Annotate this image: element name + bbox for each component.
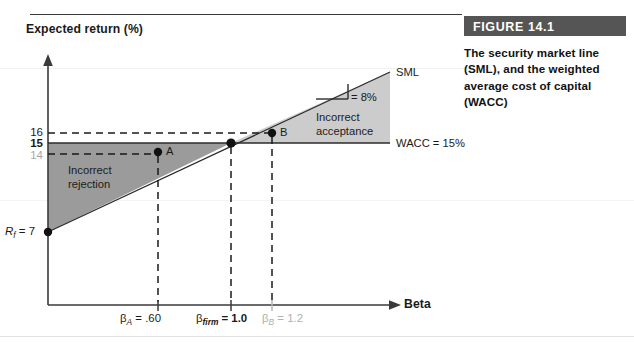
- slope-value-label: = 8%: [351, 91, 377, 103]
- y-tick-label-14: 14: [17, 149, 43, 161]
- rf-value: = 7: [16, 225, 36, 237]
- y-tick-label-15: 15: [17, 137, 43, 149]
- beta-a-value: = .60: [132, 312, 161, 324]
- region-label-incorrect-rejection: Incorrectrejection: [68, 163, 112, 191]
- point-project-a: [154, 148, 162, 156]
- y-axis-title: Expected return (%): [26, 22, 143, 37]
- point-b-label: B: [280, 126, 287, 138]
- x-tick-label-beta-firm: βfirm = 1.0: [196, 312, 247, 327]
- wacc-line-label: WACC = 15%: [396, 137, 465, 149]
- region-label-incorrect-acceptance: Incorrectacceptance: [316, 110, 373, 138]
- sml-line-label: SML: [396, 66, 419, 78]
- beta-b-value: = 1.2: [274, 312, 303, 324]
- x-tick-label-beta-b: βB = 1.2: [262, 312, 303, 327]
- risk-free-rate-label: Rf = 7: [5, 225, 35, 240]
- point-firm: [226, 138, 235, 147]
- beta-firm-subscript: firm: [203, 317, 219, 327]
- x-axis-title: Beta: [404, 297, 431, 311]
- point-project-b: [268, 129, 276, 137]
- y-axis-arrowhead: [43, 54, 53, 66]
- beta-firm-value: = 1.0: [218, 312, 247, 324]
- point-a-label: A: [166, 145, 173, 157]
- x-axis-arrowhead: [389, 300, 401, 310]
- point-risk-free-rate: [44, 228, 52, 236]
- x-tick-label-beta-a: βA = .60: [120, 312, 161, 327]
